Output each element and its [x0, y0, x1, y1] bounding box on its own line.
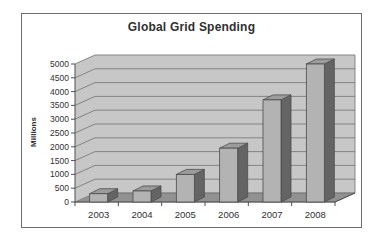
chart-title: Global Grid Spending [22, 20, 361, 34]
bar-2003 [90, 194, 108, 202]
bar-side-2008 [324, 59, 334, 202]
y-tick-label: 5000 [50, 59, 69, 69]
bar-2008 [306, 64, 324, 202]
bar-2005 [176, 174, 194, 202]
y-tick-label: 1500 [50, 156, 69, 166]
x-category-label: 2008 [305, 209, 326, 220]
chart-frame: 0500100015002000250030003500400045005000… [21, 13, 362, 228]
y-tick-label: 500 [55, 183, 69, 193]
bar-2004 [133, 191, 151, 202]
y-tick-label: 2500 [50, 128, 69, 138]
bar-side-2006 [238, 143, 248, 202]
x-category-label: 2003 [88, 209, 109, 220]
y-tick-label: 2000 [50, 142, 69, 152]
plot-area: 0500100015002000250030003500400045005000… [22, 14, 361, 227]
y-tick-label: 0 [64, 197, 69, 207]
x-category-label: 2007 [261, 209, 282, 220]
y-tick-label: 4500 [50, 73, 69, 83]
y-axis-title: Millions [29, 117, 38, 147]
bar-2007 [263, 100, 281, 202]
x-category-label: 2004 [131, 209, 152, 220]
y-tick-label: 3500 [50, 100, 69, 110]
y-tick-label: 3000 [50, 114, 69, 124]
x-category-label: 2006 [218, 209, 239, 220]
x-category-label: 2005 [175, 209, 196, 220]
bar-2006 [220, 148, 238, 202]
bar-side-2005 [194, 169, 204, 202]
y-tick-label: 1000 [50, 169, 69, 179]
y-tick-label: 4000 [50, 87, 69, 97]
bar-side-2007 [281, 95, 291, 202]
